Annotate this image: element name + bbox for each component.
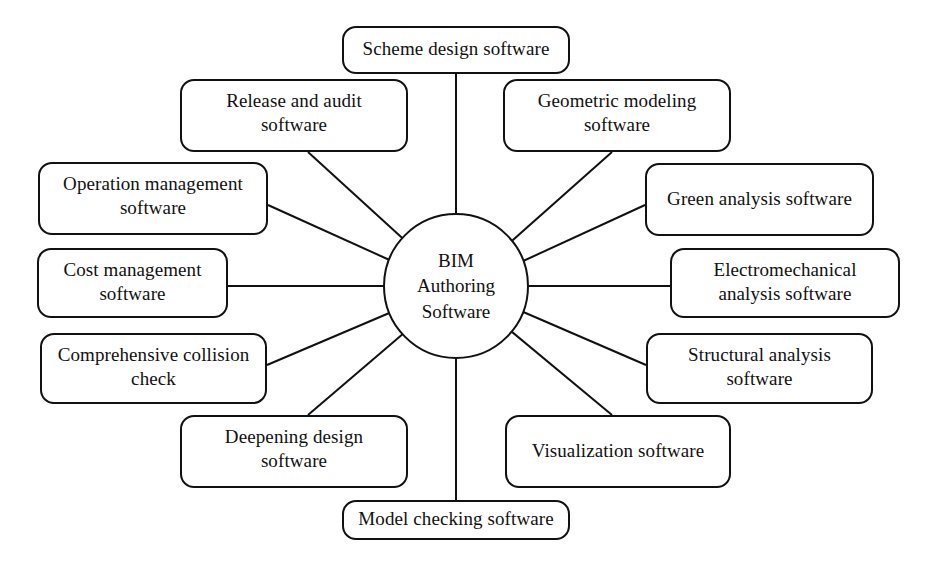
node-label-visualization-software: Visualization software (524, 439, 713, 463)
edge-visualization-software (506, 327, 612, 415)
node-model-checking-software[interactable]: Model checking software (342, 500, 570, 540)
node-label-electromechanical-analysis-software: Electromechanical analysis software (705, 258, 864, 306)
center-node-bim-authoring-software[interactable]: BIM Authoring Software (383, 213, 529, 359)
edge-geometric-modeling-software (505, 152, 612, 247)
node-structural-analysis-software[interactable]: Structural analysis software (646, 333, 873, 404)
node-operation-management-software[interactable]: Operation management software (38, 162, 268, 235)
node-scheme-design-software[interactable]: Scheme design software (342, 26, 570, 74)
node-release-and-audit-software[interactable]: Release and audit software (180, 79, 408, 152)
node-electromechanical-analysis-software[interactable]: Electromechanical analysis software (670, 248, 900, 318)
node-label-structural-analysis-software: Structural analysis software (680, 343, 839, 391)
node-cost-management-software[interactable]: Cost management software (37, 248, 228, 318)
node-visualization-software[interactable]: Visualization software (505, 415, 731, 488)
node-label-model-checking-software: Model checking software (350, 507, 561, 531)
node-label-geometric-modeling-software: Geometric modeling software (530, 89, 705, 137)
edge-release-and-audit-software (308, 152, 411, 246)
node-label-cost-management-software: Cost management software (55, 258, 209, 306)
node-label-green-analysis-software: Green analysis software (659, 187, 860, 211)
node-label-operation-management-software: Operation management software (55, 172, 251, 220)
node-label-release-and-audit-software: Release and audit software (218, 89, 370, 137)
node-label-deepening-design-software: Deepening design software (217, 425, 371, 473)
edge-green-analysis-software (521, 205, 645, 262)
center-node-label: BIM Authoring Software (417, 248, 495, 323)
node-comprehensive-collision-check[interactable]: Comprehensive collision check (40, 333, 267, 404)
diagram-canvas: BIM Authoring Software Scheme design sof… (0, 0, 933, 570)
node-geometric-modeling-software[interactable]: Geometric modeling software (503, 79, 731, 152)
node-label-comprehensive-collision-check: Comprehensive collision check (50, 343, 258, 391)
node-green-analysis-software[interactable]: Green analysis software (645, 163, 874, 236)
edge-structural-analysis-software (521, 311, 646, 365)
node-label-scheme-design-software: Scheme design software (355, 37, 558, 61)
node-deepening-design-software[interactable]: Deepening design software (180, 415, 408, 488)
